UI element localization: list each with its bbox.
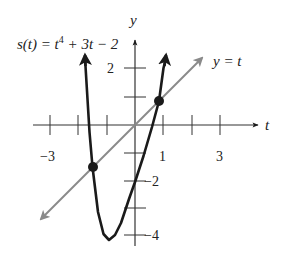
y-tick-label-neg2: −2 xyxy=(144,174,159,189)
t-axis-label: t xyxy=(265,117,270,133)
y-tick-label-2: 2 xyxy=(107,61,114,76)
x-tick-label-3: 3 xyxy=(216,149,223,164)
graph-figure: s(t) = t4 + 3t − 2 y = t t y −3 1 3 2 −2… xyxy=(0,0,281,257)
x-tick-label-neg3: −3 xyxy=(40,149,55,164)
graph-svg: s(t) = t4 + 3t − 2 y = t t y −3 1 3 2 −2… xyxy=(0,0,281,257)
intersection-point-right xyxy=(154,96,164,106)
s-function-label: s(t) = t4 + 3t − 2 xyxy=(17,34,119,53)
line-y-equals-t xyxy=(41,58,202,219)
y-tick-label-neg4: −4 xyxy=(144,228,159,243)
line-y-equals-t-label: y = t xyxy=(211,53,242,69)
curve-right-arrow xyxy=(165,55,167,66)
intersection-point-left xyxy=(88,162,98,172)
x-tick-label-1: 1 xyxy=(159,149,166,164)
curve-s-of-t xyxy=(85,58,166,240)
curve-left-arrow xyxy=(85,55,86,66)
y-axis-label: y xyxy=(128,12,137,28)
